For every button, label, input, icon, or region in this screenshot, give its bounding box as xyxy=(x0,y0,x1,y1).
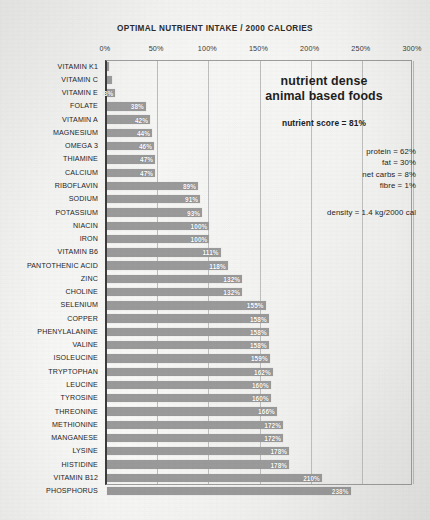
category-label: OMEGA 3 xyxy=(0,142,98,150)
bar-row: TRYPTOPHAN162% xyxy=(0,365,430,378)
macro-line: protein = 62% xyxy=(232,146,416,157)
bar: 47% xyxy=(107,169,155,177)
category-label: MANGANESE xyxy=(0,434,98,442)
bar-row: LYSINE178% xyxy=(0,445,430,458)
category-label: THREONINE xyxy=(0,408,98,416)
bar-track: 8% xyxy=(107,89,115,97)
bar-row: MANGANESE172% xyxy=(0,431,430,444)
category-label: THIAMINE xyxy=(0,155,98,163)
bar: 46% xyxy=(107,142,154,150)
category-label: LYSINE xyxy=(0,447,98,455)
bar: 158% xyxy=(107,314,269,322)
category-label: SELENIUM xyxy=(0,301,98,309)
bar-value-label: 42% xyxy=(135,116,148,123)
bar-value-label: 38% xyxy=(131,103,144,110)
panel-headline-line2: animal based foods xyxy=(232,89,416,104)
bar: 172% xyxy=(107,434,283,442)
bar-value-label: 132% xyxy=(223,275,240,282)
bar-track: 160% xyxy=(107,394,271,402)
category-label: VITAMIN A xyxy=(0,116,98,124)
bar-track: 89% xyxy=(107,182,198,190)
category-label: PHENYLALANINE xyxy=(0,328,98,336)
bar-track: 91% xyxy=(107,195,200,203)
bar-row: VITAMIN K1 xyxy=(0,60,430,73)
bar: 210% xyxy=(107,474,322,482)
bar: 238% xyxy=(107,487,351,495)
bar-row: VALINE158% xyxy=(0,339,430,352)
bar-value-label: 160% xyxy=(252,395,269,402)
bar: 111% xyxy=(107,248,221,256)
bar-track: 238% xyxy=(107,487,351,495)
bar: 158% xyxy=(107,328,269,336)
bar: 118% xyxy=(107,261,228,269)
bar-track: 166% xyxy=(107,407,277,415)
bar-value-label: 172% xyxy=(264,421,281,428)
bar: 172% xyxy=(107,421,283,429)
bar: 162% xyxy=(107,368,273,376)
tick-label-150: 150% xyxy=(249,44,268,53)
bar: 93% xyxy=(107,208,202,216)
bar-value-label: 238% xyxy=(332,488,349,495)
bar-value-label: 158% xyxy=(250,328,267,335)
bar: 100% xyxy=(107,222,209,230)
panel-headline: nutrient dense animal based foods xyxy=(232,74,416,104)
bar-track: 132% xyxy=(107,275,242,283)
bar-row: SELENIUM155% xyxy=(0,299,430,312)
bar-track: 132% xyxy=(107,288,242,296)
bar-value-label: 100% xyxy=(191,236,208,243)
bar: 155% xyxy=(107,301,266,309)
category-label: METHIONINE xyxy=(0,421,98,429)
bar-track: 47% xyxy=(107,169,155,177)
bar-row: METHIONINE172% xyxy=(0,418,430,431)
bar: 100% xyxy=(107,235,209,243)
bar-track: 118% xyxy=(107,261,228,269)
bar-value-label: 172% xyxy=(264,435,281,442)
category-label: CALCIUM xyxy=(0,169,98,177)
category-label: HISTIDINE xyxy=(0,461,98,469)
bar: 44% xyxy=(107,129,152,137)
category-label: POTASSIUM xyxy=(0,209,98,217)
bar-row: HISTIDINE178% xyxy=(0,458,430,471)
bar-track: 178% xyxy=(107,447,289,455)
bar: 158% xyxy=(107,341,269,349)
bar: 91% xyxy=(107,195,200,203)
category-label: COPPER xyxy=(0,315,98,323)
bar-row: COPPER158% xyxy=(0,312,430,325)
macro-line: fibre = 1% xyxy=(232,180,416,191)
category-label: NIACIN xyxy=(0,222,98,230)
bar-value-label: 118% xyxy=(209,262,225,269)
tick-label-50: 50% xyxy=(149,44,164,53)
bar-value-label: 100% xyxy=(191,222,208,229)
category-label: TRYPTOPHAN xyxy=(0,368,98,376)
category-label: VITAMIN K1 xyxy=(0,63,98,71)
macro-line: fat = 30% xyxy=(232,157,416,168)
tick-label-100: 100% xyxy=(198,44,217,53)
bar-track xyxy=(107,62,109,70)
bar-value-label: 47% xyxy=(140,156,153,163)
macro-breakdown: protein = 62%fat = 30%net carbs = 8%fibr… xyxy=(232,146,416,192)
bar: 159% xyxy=(107,354,270,362)
bar-row: ZINC132% xyxy=(0,272,430,285)
bar-track: 100% xyxy=(107,222,209,230)
bar-row: CHOLINE132% xyxy=(0,286,430,299)
bar-value-label: 178% xyxy=(270,448,287,455)
panel-headline-line1: nutrient dense xyxy=(232,74,416,89)
bar-track: 210% xyxy=(107,474,322,482)
bar-row: PHENYLALANINE158% xyxy=(0,325,430,338)
category-label: IRON xyxy=(0,235,98,243)
bar-value-label: 160% xyxy=(252,381,269,388)
bar-value-label: 91% xyxy=(185,196,198,203)
bar-value-label: 93% xyxy=(187,209,200,216)
category-label: VALINE xyxy=(0,341,98,349)
bar: 132% xyxy=(107,288,242,296)
bar xyxy=(107,62,109,70)
bar-track: 178% xyxy=(107,460,289,468)
bar: 160% xyxy=(107,394,271,402)
bar-row: ISOLEUCINE159% xyxy=(0,352,430,365)
bar-track: 38% xyxy=(107,102,146,110)
category-label: LEUCINE xyxy=(0,381,98,389)
category-label: PANTOTHENIC ACID xyxy=(0,262,98,270)
category-label: VITAMIN E xyxy=(0,89,98,97)
bar-track: 159% xyxy=(107,354,270,362)
bar-track: 47% xyxy=(107,155,155,163)
